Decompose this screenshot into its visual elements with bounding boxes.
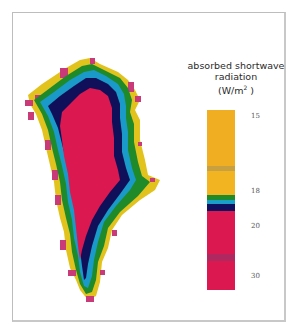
legend-title-line1: absorbed shortwave [176, 60, 295, 71]
legend-title: absorbed shortwave radiation (W/m2 ) [176, 60, 295, 96]
legend-title-line2: radiation [176, 71, 295, 82]
colorbar-tick-label: 18 [251, 187, 260, 195]
colorbar-tick-label: 30 [251, 272, 260, 280]
colorbar-tick-label: 20 [251, 222, 260, 230]
colorbar-tick-label: 15 [251, 112, 260, 120]
legend-units: (W/m2 ) [176, 82, 295, 96]
greenland-radiation-map [0, 0, 295, 331]
colorbar [207, 110, 235, 290]
